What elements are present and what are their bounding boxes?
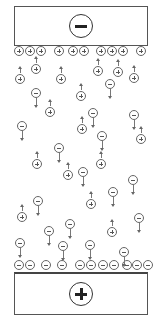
cation xyxy=(113,67,123,77)
arrow-up-icon xyxy=(98,60,99,65)
arrow-down-icon xyxy=(124,257,125,265)
arrow-down-icon xyxy=(134,120,135,128)
arrow-up-icon xyxy=(91,193,92,198)
anion xyxy=(97,131,107,141)
adsorbed-anion xyxy=(98,260,108,270)
anion xyxy=(31,88,41,98)
arrow-up-icon xyxy=(37,153,38,158)
anion xyxy=(54,143,64,153)
adsorbed-anion xyxy=(143,260,153,270)
adsorbed-cation xyxy=(68,46,78,56)
arrow-up-icon xyxy=(36,58,37,63)
adsorbed-cation xyxy=(96,46,106,56)
arrow-down-icon xyxy=(49,236,50,244)
adsorbed-cation xyxy=(79,46,89,56)
arrow-up-icon xyxy=(101,153,102,158)
anion xyxy=(17,121,27,131)
adsorbed-anion xyxy=(132,260,142,270)
arrow-up-icon xyxy=(81,85,82,90)
anion xyxy=(108,187,118,197)
adsorbed-anion xyxy=(75,260,85,270)
cation xyxy=(45,107,55,117)
arrow-down-icon xyxy=(20,248,21,256)
arrow-down-icon xyxy=(110,89,111,97)
arrow-up-icon xyxy=(20,68,21,73)
arrow-down-icon xyxy=(59,153,60,161)
anion xyxy=(88,108,98,118)
arrow-down-icon xyxy=(22,131,23,139)
cation xyxy=(96,159,106,169)
cation xyxy=(86,199,96,209)
cation xyxy=(15,74,25,84)
adsorbed-cation xyxy=(54,46,64,56)
arrow-down-icon xyxy=(70,229,71,237)
arrow-down-icon xyxy=(102,141,103,149)
adsorbed-anion xyxy=(25,260,35,270)
anion xyxy=(119,247,129,257)
adsorbed-cation xyxy=(25,46,35,56)
cation xyxy=(56,74,66,84)
adsorbed-cation xyxy=(118,46,128,56)
adsorbed-anion xyxy=(57,260,67,270)
negative-electrode xyxy=(14,6,148,46)
positive-electrode xyxy=(14,272,148,315)
arrow-down-icon xyxy=(93,118,94,126)
cation xyxy=(76,91,86,101)
cation xyxy=(77,124,87,134)
arrow-down-icon xyxy=(113,197,114,205)
anion xyxy=(105,79,115,89)
cation xyxy=(63,170,73,180)
arrow-down-icon xyxy=(139,223,140,231)
anion xyxy=(128,175,138,185)
minus-icon xyxy=(69,14,93,38)
arrow-down-icon xyxy=(63,251,64,259)
cation xyxy=(31,64,41,74)
anion xyxy=(134,213,144,223)
anion xyxy=(65,219,75,229)
cation xyxy=(93,66,103,76)
arrow-down-icon xyxy=(36,98,37,106)
arrow-up-icon xyxy=(50,101,51,106)
anion xyxy=(15,238,25,248)
adsorbed-cation xyxy=(14,46,24,56)
cation xyxy=(17,212,27,222)
anion xyxy=(129,110,139,120)
adsorbed-cation xyxy=(107,46,117,56)
adsorbed-anion xyxy=(109,260,119,270)
adsorbed-anion xyxy=(86,260,96,270)
anion xyxy=(78,167,88,177)
adsorbed-cation xyxy=(36,46,46,56)
arrow-up-icon xyxy=(141,128,142,133)
cation xyxy=(136,134,146,144)
anion xyxy=(44,226,54,236)
anion xyxy=(58,241,68,251)
arrow-up-icon xyxy=(61,68,62,73)
arrow-down-icon xyxy=(133,185,134,193)
arrow-up-icon xyxy=(134,67,135,72)
arrow-up-icon xyxy=(118,61,119,66)
arrow-up-icon xyxy=(112,221,113,226)
cation xyxy=(32,159,42,169)
anion xyxy=(33,196,43,206)
arrow-up-icon xyxy=(68,164,69,169)
adsorbed-anion xyxy=(14,260,24,270)
plus-icon xyxy=(69,282,93,306)
arrow-up-icon xyxy=(22,206,23,211)
adsorbed-anion xyxy=(41,260,51,270)
cation xyxy=(129,73,139,83)
adsorbed-cation xyxy=(136,46,146,56)
arrow-up-icon xyxy=(82,118,83,123)
arrow-down-icon xyxy=(90,250,91,258)
cation xyxy=(107,227,117,237)
anion xyxy=(85,240,95,250)
arrow-down-icon xyxy=(38,206,39,214)
arrow-down-icon xyxy=(83,177,84,185)
